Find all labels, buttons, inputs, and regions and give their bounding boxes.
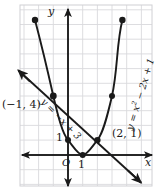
intersection-point-left-dot	[50, 93, 57, 100]
intersection-point-right-dot	[94, 137, 100, 143]
point-label-minus-one-four: (−1, 4)	[2, 99, 41, 110]
y-tick-label-one: 1	[56, 132, 63, 143]
y-intercept-dot	[65, 137, 71, 143]
parabola-left-endpoint-dot	[32, 17, 38, 23]
parabola-right-endpoint-dot	[119, 17, 125, 23]
y-axis-label: y	[48, 6, 54, 17]
coordinate-graph-figure: y x O 1 1 (−1, 4) (2, 1) y = −x + 3 y = …	[0, 0, 163, 192]
origin-label: O	[62, 158, 70, 168]
point-label-two-one: (2, 1)	[112, 128, 142, 139]
parabola-point-right-dot	[109, 93, 115, 99]
x-tick-label-one: 1	[78, 159, 85, 170]
x-axis-label: x	[145, 157, 151, 168]
